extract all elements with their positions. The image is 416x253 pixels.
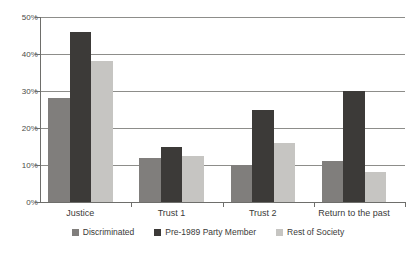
bar: [343, 91, 365, 202]
y-axis-tick-label: 10%: [4, 161, 38, 170]
bar: [182, 156, 204, 202]
legend-label: Rest of Society: [287, 227, 344, 237]
y-axis-tick-label: 50%: [4, 13, 38, 22]
y-axis: 0%10%20%30%40%50%: [0, 0, 38, 253]
bar: [70, 32, 92, 202]
bar: [252, 110, 274, 203]
chart-legend: DiscriminatedPre-1989 Party MemberRest o…: [0, 227, 416, 237]
legend-label: Discriminated: [83, 227, 135, 237]
bar: [231, 165, 253, 202]
y-axis-tick-label: 40%: [4, 50, 38, 59]
x-axis-category-label: Return to the past: [318, 208, 390, 218]
x-axis-tick-mark: [405, 202, 406, 207]
bar: [274, 143, 296, 202]
x-axis-tick-mark: [223, 202, 224, 207]
legend-item: Discriminated: [72, 227, 135, 237]
bars-layer: [40, 17, 405, 202]
y-axis-tick-label: 0%: [4, 198, 38, 207]
y-axis-tick-label: 30%: [4, 87, 38, 96]
legend-item: Rest of Society: [276, 227, 344, 237]
bar: [365, 172, 387, 202]
x-axis-tick-mark: [314, 202, 315, 207]
y-axis-tick-label: 20%: [4, 124, 38, 133]
legend-swatch-2: [154, 229, 161, 236]
x-axis-category-label: Trust 2: [249, 208, 277, 218]
x-axis-category-label: Justice: [66, 208, 94, 218]
bar: [91, 61, 113, 202]
x-axis-tick-mark: [131, 202, 132, 207]
legend-swatch-1: [72, 229, 79, 236]
legend-swatch-3: [276, 229, 283, 236]
bar-chart: 0%10%20%30%40%50% DiscriminatedPre-1989 …: [0, 0, 416, 253]
bar: [161, 147, 183, 203]
bar: [139, 158, 161, 202]
legend-label: Pre-1989 Party Member: [165, 227, 256, 237]
bar: [48, 98, 70, 202]
bar: [322, 161, 344, 202]
legend-item: Pre-1989 Party Member: [154, 227, 256, 237]
x-axis-category-label: Trust 1: [158, 208, 186, 218]
